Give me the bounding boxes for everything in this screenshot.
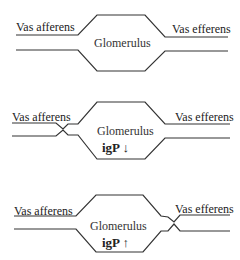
glomerulus-label-2: Glomerulus xyxy=(97,125,154,137)
pressure-label-3: igP ↑ xyxy=(102,236,129,249)
afferent-label-2: Vas afferens xyxy=(12,111,71,123)
efferent-label-3: Vas efferens xyxy=(175,203,234,215)
efferent-label-2: Vas efferens xyxy=(175,111,234,123)
afferent-label-1: Vas afferens xyxy=(16,21,75,33)
efferent-label-1: Vas efferens xyxy=(172,23,231,35)
vessel-wall-bottom-1 xyxy=(16,50,228,71)
afferent-label-3: Vas afferens xyxy=(14,205,73,217)
glomerulus-label-3: Glomerulus xyxy=(90,220,147,232)
glomerulus-label-1: Glomerulus xyxy=(94,37,151,49)
pressure-label-2: igP ↓ xyxy=(102,141,129,154)
